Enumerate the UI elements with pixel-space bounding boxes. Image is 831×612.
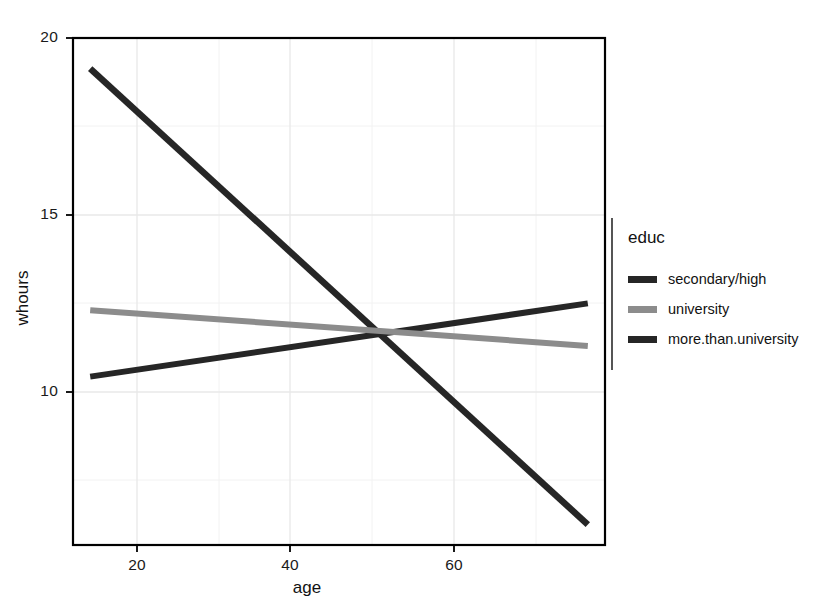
- legend: educ secondary/high university more.than…: [628, 228, 828, 354]
- legend-item-secondary-high[interactable]: secondary/high: [628, 264, 828, 294]
- x-tick-label-20: 20: [112, 556, 162, 574]
- legend-item-university[interactable]: university: [628, 294, 828, 324]
- legend-swatch-icon-university: [628, 306, 657, 313]
- legend-swatch-icon-more-than-university: [628, 336, 657, 343]
- chart-container: 20 15 10 20 40 60 age whours educ second…: [0, 0, 831, 612]
- y-axis-title: whours: [13, 253, 33, 343]
- legend-label-university: university: [668, 301, 729, 317]
- y-tick-label-20: 20: [12, 28, 58, 46]
- y-tick-label-15: 15: [12, 205, 58, 223]
- legend-item-more-than-university[interactable]: more.than.university: [628, 324, 828, 354]
- legend-title: educ: [628, 228, 828, 248]
- x-tick-label-60: 60: [429, 556, 479, 574]
- legend-swatch-icon-secondary-high: [628, 276, 657, 283]
- legend-label-secondary-high: secondary/high: [668, 271, 766, 287]
- x-axis-title: age: [0, 578, 614, 598]
- x-tick-label-40: 40: [265, 556, 315, 574]
- y-tick-label-10: 10: [12, 382, 58, 400]
- legend-label-more-than-university: more.than.university: [668, 331, 799, 347]
